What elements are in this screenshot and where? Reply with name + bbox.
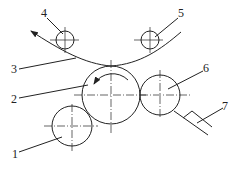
label-7: 7	[222, 99, 228, 113]
leader-line	[19, 85, 88, 98]
label-5: 5	[178, 6, 184, 20]
leader-line	[155, 18, 178, 37]
label-2: 2	[11, 92, 17, 106]
leader-line	[197, 108, 223, 123]
label-1: 1	[12, 147, 18, 161]
label-6: 6	[203, 61, 209, 75]
blade-7-holder	[183, 111, 212, 127]
diagram-canvas: 4 5 3 6 2 7 1	[0, 0, 243, 174]
leader-line	[47, 18, 63, 34]
leader-line	[19, 137, 62, 152]
leader-line	[19, 58, 76, 69]
label-4: 4	[41, 6, 47, 20]
blade-7	[174, 111, 208, 135]
label-3: 3	[11, 62, 17, 76]
